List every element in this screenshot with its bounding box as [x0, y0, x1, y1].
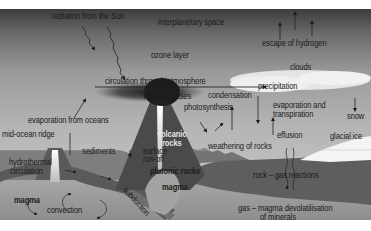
label-rock-gas-reactions: rock – gas reactions [253, 172, 319, 180]
label-of-minerals: of minerals [260, 214, 296, 222]
label-weathering-of-rocks: weathering of rocks [208, 143, 272, 151]
label-clouds: clouds [290, 64, 311, 72]
label-circulation-through-atmosphere: circulation through atmosphere [105, 78, 206, 86]
label-effusion: effusion [277, 132, 303, 140]
label-volcanic: volcanic [157, 131, 186, 139]
label-hydrothermal: hydrothermal [9, 159, 52, 167]
label-evaporation-from-oceans: evaporation from oceans [28, 117, 109, 125]
label-condensation: condensation [208, 92, 252, 100]
volatile-cycle-diagram: radiation from the Sun interplanetary sp… [0, 0, 371, 231]
label-plutonic-rocks: plutonic rocks [150, 168, 200, 176]
label-convection: convection [47, 207, 82, 215]
label-mid-ocean-ridge: mid-ocean ridge [2, 131, 55, 139]
label-volcanic-gases: volcanic gases [143, 93, 191, 101]
label-run-off: run-off [143, 156, 164, 164]
label-sediments: sediments [82, 148, 116, 156]
label-glacial-ice: glacial ice [330, 133, 362, 141]
label-circulation: circulation [10, 168, 43, 176]
label-radiation-from-sun: radiation from the Sun [52, 13, 124, 21]
label-magma-center: magma [162, 184, 188, 192]
label-ozone-layer: ozone layer [151, 52, 189, 60]
label-evaporation-and: evaporation and [273, 102, 326, 110]
label-magma-left: magma [14, 197, 40, 205]
label-transpiration: transpiration [273, 111, 313, 119]
label-gas-magma-devolatilisation: gas – magma devolatilisation [238, 205, 333, 213]
label-precipitation: precipitation [258, 83, 297, 91]
label-photosynthesis: photosynthesis [184, 104, 233, 112]
label-snow: snow [347, 113, 364, 121]
label-escape-of-hydrogen: escape of hydrogen [262, 40, 327, 48]
label-interplanetary-space: interplanetary space [158, 19, 224, 27]
